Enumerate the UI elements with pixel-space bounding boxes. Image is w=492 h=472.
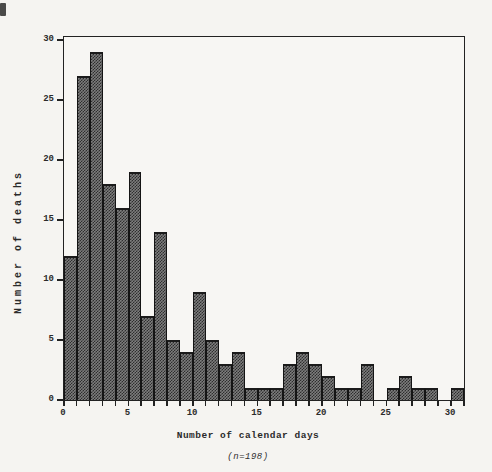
y-tick <box>57 219 63 221</box>
x-tick <box>360 400 362 406</box>
plot-area <box>63 36 465 401</box>
x-tick <box>269 400 271 406</box>
sample-size-footnote: (n=198) <box>58 452 438 462</box>
x-tick <box>257 400 259 406</box>
y-tick-label-30: 30 <box>0 34 54 44</box>
x-tick <box>411 400 413 406</box>
histogram-bar-day-13 <box>232 352 245 400</box>
histogram-bar-day-26 <box>399 376 412 400</box>
histogram-bar-day-1 <box>77 76 90 400</box>
histogram-bar-day-16 <box>270 388 283 400</box>
y-tick <box>57 399 63 401</box>
x-tick-label-30: 30 <box>435 408 465 418</box>
x-tick <box>63 400 65 406</box>
x-tick <box>282 400 284 406</box>
x-tick <box>386 400 388 406</box>
y-tick <box>57 339 63 341</box>
histogram-bar-day-12 <box>219 364 232 400</box>
histogram-bar-day-18 <box>296 352 309 400</box>
x-tick <box>308 400 310 406</box>
histogram-bar-day-25 <box>387 388 400 400</box>
x-tick <box>424 400 426 406</box>
x-axis-title: Number of calendar days <box>58 430 438 441</box>
x-tick-label-5: 5 <box>113 408 143 418</box>
histogram-bar-day-20 <box>322 376 335 400</box>
x-tick <box>192 400 194 406</box>
histogram-bar-day-7 <box>154 232 167 400</box>
histogram-bar-day-17 <box>283 364 296 400</box>
x-tick <box>205 400 207 406</box>
x-tick <box>295 400 297 406</box>
histogram-bar-day-11 <box>206 340 219 400</box>
x-tick <box>128 400 130 406</box>
y-tick-label-20: 20 <box>0 154 54 164</box>
x-tick <box>347 400 349 406</box>
x-tick <box>115 400 117 406</box>
bars <box>64 37 464 400</box>
x-tick <box>179 400 181 406</box>
histogram-bar-day-14 <box>245 388 258 400</box>
y-tick <box>57 159 63 161</box>
histogram-bar-day-23 <box>361 364 374 400</box>
x-tick <box>373 400 375 406</box>
histogram-bar-day-5 <box>129 172 142 400</box>
y-tick <box>57 39 63 41</box>
y-axis-title: Number of deaths <box>13 170 24 314</box>
x-tick-label-25: 25 <box>371 408 401 418</box>
y-tick-label-0: 0 <box>0 394 54 404</box>
x-tick-label-0: 0 <box>48 408 78 418</box>
histogram-bar-day-8 <box>167 340 180 400</box>
histogram-bar-day-19 <box>309 364 322 400</box>
x-tick <box>89 400 91 406</box>
histogram-bar-day-27 <box>412 388 425 400</box>
x-tick-label-15: 15 <box>242 408 272 418</box>
histogram-bar-day-2 <box>90 52 103 400</box>
x-tick <box>218 400 220 406</box>
histogram-bar-day-21 <box>335 388 348 400</box>
y-tick <box>57 279 63 281</box>
histogram-bar-day-9 <box>180 352 193 400</box>
x-tick <box>153 400 155 406</box>
scan-artifact <box>0 3 6 16</box>
histogram-bar-day-0 <box>64 256 77 400</box>
histogram-bar-day-15 <box>258 388 271 400</box>
figure: 051015202530 051015202530 Number of deat… <box>0 0 492 472</box>
x-tick <box>437 400 439 406</box>
y-tick-label-10: 10 <box>0 274 54 284</box>
histogram-bar-day-10 <box>193 292 206 400</box>
x-tick <box>463 400 465 406</box>
x-tick <box>76 400 78 406</box>
x-tick <box>321 400 323 406</box>
histogram-bar-day-22 <box>348 388 361 400</box>
x-tick <box>334 400 336 406</box>
histogram-bar-day-30 <box>451 388 464 400</box>
y-tick <box>57 99 63 101</box>
x-tick <box>140 400 142 406</box>
y-tick-label-5: 5 <box>0 334 54 344</box>
y-tick-label-25: 25 <box>0 94 54 104</box>
histogram-bar-day-6 <box>141 316 154 400</box>
x-tick <box>102 400 104 406</box>
x-tick <box>244 400 246 406</box>
histogram-bar-day-3 <box>103 184 116 400</box>
x-tick-label-20: 20 <box>306 408 336 418</box>
histogram-bar-day-28 <box>425 388 438 400</box>
histogram-bar-day-4 <box>116 208 129 400</box>
x-tick <box>398 400 400 406</box>
y-tick-label-15: 15 <box>0 214 54 224</box>
x-tick <box>450 400 452 406</box>
x-tick-label-10: 10 <box>177 408 207 418</box>
x-tick <box>166 400 168 406</box>
x-tick <box>231 400 233 406</box>
